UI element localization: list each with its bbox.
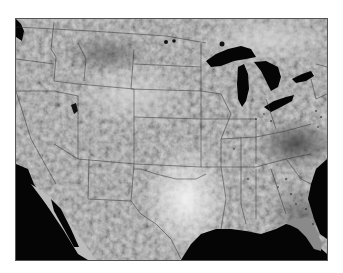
lake-small-2	[172, 39, 176, 43]
map-frame	[15, 18, 328, 261]
us-grayscale-map	[16, 19, 327, 260]
lake-small-3	[220, 42, 225, 47]
lake-small-1	[164, 40, 168, 44]
dark-region-montana	[61, 34, 151, 74]
